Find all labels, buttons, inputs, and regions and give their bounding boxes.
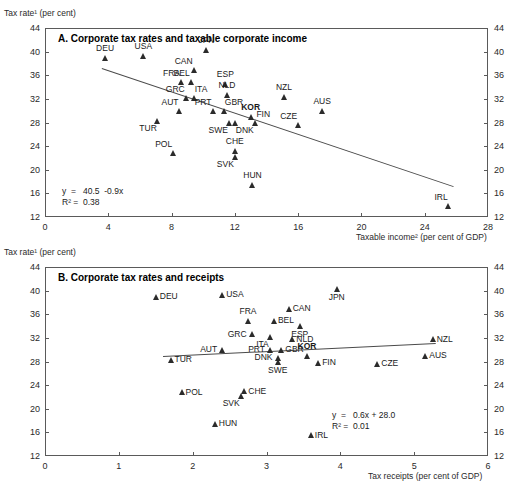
panel-a-ytick-left: 28 xyxy=(18,118,40,128)
data-point-marker xyxy=(245,318,251,324)
panel-b-ytick-left: 36 xyxy=(18,309,40,319)
data-point-marker xyxy=(271,318,277,324)
panel-b-ytick-right: 24 xyxy=(494,380,516,390)
panel-a-y-axis-label: Tax rate¹ (per cent) xyxy=(4,8,76,18)
data-point-marker xyxy=(374,361,380,367)
panel-a-ytickmark xyxy=(484,52,488,53)
panel-b-x-axis-title: Tax receipts (per cent of GDP) xyxy=(368,471,482,481)
panel-b-ytickmark xyxy=(45,291,49,292)
panel-a-xtickmark xyxy=(361,213,362,217)
panel-b-xtickmark xyxy=(193,452,194,456)
panel-b-ytickmark xyxy=(45,338,49,339)
panel-a-ytick-right: 36 xyxy=(494,70,516,80)
panel-b-ytickmark xyxy=(484,314,488,315)
data-point-label: KOR xyxy=(298,342,317,351)
panel-a-ytick-left: 32 xyxy=(18,94,40,104)
data-point-label: AUT xyxy=(200,345,217,354)
panel-a-xtick: 0 xyxy=(33,222,57,232)
panel-a-ytickmark xyxy=(45,75,49,76)
panel-a-xtickmark xyxy=(172,213,173,217)
data-point-label: ITA xyxy=(195,85,208,94)
data-point-label: BEL xyxy=(278,316,294,325)
data-point-label: POL xyxy=(155,140,172,149)
panel-a-xtickmark xyxy=(425,213,426,217)
panel-a-xtickmark xyxy=(298,213,299,217)
panel-b-xtick: 6 xyxy=(476,461,500,471)
panel-b-ytickmark xyxy=(484,362,488,363)
panel-a-equation-line: y = 40.5 -0.9x xyxy=(62,186,123,197)
panel-b-ytickmark xyxy=(45,314,49,315)
panel-a-ytick-left: 12 xyxy=(18,212,40,222)
panel-b-ytickmark xyxy=(484,291,488,292)
data-point-marker xyxy=(308,432,314,438)
data-point-label: IRL xyxy=(434,193,447,202)
panel-a-ytick-right: 16 xyxy=(494,188,516,198)
panel-b-xtick: 1 xyxy=(107,461,131,471)
panel-a-ytickmark xyxy=(484,170,488,171)
panel-a-xtick: 20 xyxy=(349,222,373,232)
panel-a-ytickmark xyxy=(45,123,49,124)
data-point-marker xyxy=(203,47,209,53)
panel-b-ytick-left: 16 xyxy=(18,427,40,437)
panel-b-ytick-right: 40 xyxy=(494,286,516,296)
data-point-marker xyxy=(168,357,174,363)
data-point-label: CHE xyxy=(226,137,244,146)
panel-b-ytickmark xyxy=(45,409,49,410)
data-point-marker xyxy=(170,150,176,156)
data-point-label: FIN xyxy=(256,110,270,119)
panel-a-x-axis-title: Taxable income² (per cent of GDP) xyxy=(356,232,487,242)
panel-a-ytickmark xyxy=(45,170,49,171)
data-point-label: GRC xyxy=(166,85,185,94)
panel-a-ytickmark xyxy=(484,99,488,100)
data-point-marker xyxy=(249,182,255,188)
data-point-marker xyxy=(212,421,218,427)
panel-b-xtickmark xyxy=(267,452,268,456)
panel-b-ytickmark xyxy=(484,432,488,433)
panel-a-xtick: 24 xyxy=(413,222,437,232)
panel-a-ytickmark xyxy=(484,75,488,76)
data-point-marker xyxy=(221,108,227,114)
panel-b-equation-line: y = 0.6x + 28.0 xyxy=(332,410,395,421)
data-point-marker xyxy=(210,108,216,114)
data-point-label: SWE xyxy=(268,366,287,375)
panel-b-xtickmark xyxy=(119,452,120,456)
data-point-label: JPN xyxy=(198,36,214,45)
panel-b-ytickmark xyxy=(484,409,488,410)
panel-b-ytickmark xyxy=(484,385,488,386)
data-point-marker xyxy=(289,336,295,342)
panel-a-r2-line: R² = 0.38 xyxy=(62,197,123,208)
data-point-marker xyxy=(219,347,225,353)
data-point-label: DEU xyxy=(160,292,178,301)
data-point-label: TUR xyxy=(175,355,192,364)
panel-b-ytickmark xyxy=(45,362,49,363)
data-point-label: DEU xyxy=(96,44,114,53)
panel-b-xtick: 2 xyxy=(181,461,205,471)
data-point-label: USA xyxy=(226,290,243,299)
panel-a-ytick-left: 20 xyxy=(18,165,40,175)
data-point-label: FRA xyxy=(163,69,180,78)
data-point-marker xyxy=(422,353,428,359)
panel-a-xtick: 28 xyxy=(476,222,500,232)
panel-b-ytickmark xyxy=(45,432,49,433)
data-point-marker xyxy=(430,336,436,342)
panel-a-ytick-left: 24 xyxy=(18,141,40,151)
data-point-label: SVK xyxy=(217,160,234,169)
panel-b-ytick-right: 20 xyxy=(494,404,516,414)
data-point-label: NZL xyxy=(276,83,292,92)
panel-b-ytick-right: 44 xyxy=(494,262,516,272)
data-point-label: IRL xyxy=(315,431,328,440)
panel-a-ytickmark xyxy=(45,146,49,147)
panel-b-xtickmark xyxy=(340,452,341,456)
data-point-label: CAN xyxy=(293,304,311,313)
figure-root: Tax rate¹ (per cent) A. Corporate tax ra… xyxy=(0,0,524,488)
panel-a-ytick-left: 36 xyxy=(18,70,40,80)
data-point-marker xyxy=(445,203,451,209)
panel-a-ytickmark xyxy=(45,99,49,100)
data-point-label: DNK xyxy=(255,353,273,362)
data-point-label: USA xyxy=(135,42,152,51)
panel-b-ytick-right: 36 xyxy=(494,309,516,319)
data-point-marker xyxy=(286,306,292,312)
data-point-marker xyxy=(315,360,321,366)
data-point-label: SWE xyxy=(209,126,228,135)
data-point-label: PRT xyxy=(195,98,212,107)
